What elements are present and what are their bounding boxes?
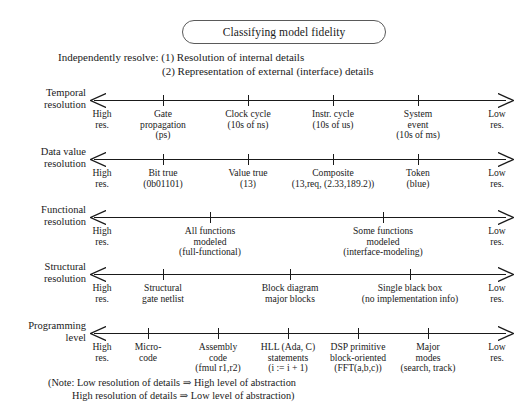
axis-row-label: Temporalresolution [8,87,86,110]
caption-line: Low [488,283,506,294]
caption-line: res. [92,294,111,305]
caption-line: (full-functional) [179,247,241,258]
axis-tick-caption: Micro-code [135,342,162,363]
axis-row-label-line2: resolution [8,273,86,285]
note-line-2: High resolution of details ⇒ Low level o… [0,389,520,402]
axis-endpoint-high: Highres. [92,226,111,247]
axis-tick-caption: All functionsmodeled(full-functional) [179,226,241,258]
axis-line [94,100,506,101]
caption-line: res. [488,179,506,190]
caption-line: (interface-modeling) [343,247,422,258]
axis-line [94,217,506,218]
axis-tick-caption: Block diagrammajor blocks [262,283,319,304]
caption-line: High [92,283,111,294]
axis-tick [248,154,249,165]
caption-line: System [396,109,440,120]
caption-line: High [92,342,111,353]
axis-tick-caption: Single black box(no implementation info) [362,283,458,304]
diagram-title-box: Classifying model fidelity [182,20,386,44]
axis-tick [218,328,219,339]
axis-endpoint-high: Highres. [92,109,111,130]
caption-line: Value true [228,168,267,179]
caption-line: code [135,353,162,364]
axis-row-label: Structuralresolution [8,261,86,284]
intro-block: Independently resolve: (1) Resolution of… [0,50,520,78]
axis-line [94,333,506,334]
axis-arrow-right-icon [498,326,514,341]
axis-tick [288,328,289,339]
axis-tick [358,328,359,339]
axis-tick [148,328,149,339]
axis-arrow-left-icon [90,93,106,108]
caption-line: HLL (Ada, C) [261,342,315,353]
caption-line: res. [488,294,506,305]
axis-arrow-right-icon [498,152,514,167]
axis-row-label-line1: Functional [41,204,86,215]
axis-row-label-line1: Programming [28,320,86,331]
axis-tick-caption: Structuralgate netlist [142,283,184,304]
axis-row-label-line2: resolution [8,216,86,228]
caption-line: res. [488,353,506,364]
caption-line: (fmul r1,r2) [195,363,240,374]
note-block: (Note: Low resolution of details ⇒ High … [0,376,520,402]
axis-row-label-line2: resolution [8,158,86,170]
axis-row: ProgramminglevelHighres.Lowres.Micro-cod… [0,333,520,334]
caption-line: All functions [179,226,241,237]
axis-arrow-right-icon [498,210,514,225]
axis-row: TemporalresolutionHighres.Lowres.Gatepro… [0,100,520,101]
axis-row-label: Data valueresolution [8,146,86,169]
axis-arrow-right-icon [498,93,514,108]
axis-tick [418,95,419,106]
axis-tick [418,154,419,165]
axis-row-label: Functionalresolution [8,204,86,227]
caption-line: Gate [140,109,186,120]
caption-line: Micro- [135,342,162,353]
axis-tick-caption: Value true(13) [228,168,267,189]
caption-line: (13,req, (2.33,189.2)) [292,179,375,190]
axis-tick-caption: DSP primitiveblock-oriented(FFT(a,b,c)) [330,342,386,374]
intro-line-1: Independently resolve: (1) Resolution of… [0,50,520,64]
axis-tick-caption: HLL (Ada, C)statements(i := i + 1) [261,342,315,374]
axis-tick [248,95,249,106]
caption-line: Token [406,168,430,179]
caption-line: Single black box [362,283,458,294]
caption-line: DSP primitive [330,342,386,353]
axis-tick [333,154,334,165]
axis-tick [163,154,164,165]
axis-arrow-left-icon [90,267,106,282]
axis-tick-caption: Majormodes(search, track) [401,342,456,374]
axis-tick-caption: Some functionsmodeled(interface-modeling… [343,226,422,258]
caption-line: res. [92,179,111,190]
axis-row-label-line1: Data value [41,146,86,157]
axis-tick [290,269,291,280]
caption-line: (ps) [140,130,186,141]
axis-tick-caption: Composite(13,req, (2.33,189.2)) [292,168,375,189]
axis-tick [383,212,384,223]
axis-row-label-line1: Temporal [46,87,86,98]
axis-endpoint-low: Lowres. [488,226,506,247]
axis-line [94,159,506,160]
intro-line-2: (2) Representation of external (interfac… [0,64,520,78]
caption-line: Block diagram [262,283,319,294]
axis-endpoint-high: Highres. [92,342,111,363]
caption-line: Some functions [343,226,422,237]
caption-line: (10s of ns) [225,120,271,131]
axis-tick [163,95,164,106]
axis-tick-caption: Gatepropagation(ps) [140,109,186,141]
caption-line: Composite [292,168,375,179]
axis-tick-caption: Instr. cycle(10s of us) [312,109,354,130]
axis-tick-caption: Assemblycode(fmul r1,r2) [195,342,240,374]
axis-row-label: Programminglevel [8,320,86,343]
caption-line: res. [488,237,506,248]
axis-tick [333,95,334,106]
axis-tick [428,328,429,339]
axis-endpoint-low: Lowres. [488,109,506,130]
axis-row-label-line1: Structural [45,261,86,272]
caption-line: High [92,168,111,179]
note-line-1: (Note: Low resolution of details ⇒ High … [0,376,520,389]
page-title: Classifying model fidelity [223,26,346,38]
caption-line: (13) [228,179,267,190]
caption-line: Low [488,342,506,353]
axis-tick-caption: Clock cycle(10s of ns) [225,109,271,130]
axis-tick [410,269,411,280]
